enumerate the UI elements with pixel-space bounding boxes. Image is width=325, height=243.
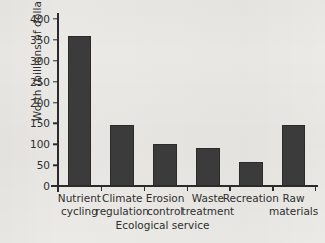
x-axis-tick [58,186,59,191]
x-axis-tick [229,186,230,191]
x-category-label: Rawmaterials [269,192,318,217]
x-category-label-line: Climate [96,192,149,205]
x-axis-tick [144,186,145,191]
bar [68,36,92,186]
x-category-label-line: Erosion [146,192,185,205]
y-axis-tick [53,39,58,40]
bar [196,148,220,186]
y-axis-tick [53,123,58,124]
y-axis-tick-label: 400 [30,13,50,25]
x-category-label-line: materials [269,205,318,218]
y-axis-tick [53,102,58,103]
y-axis-tick-label: 100 [30,138,50,150]
x-category-label: Erosioncontrol [146,192,185,217]
y-axis-tick-label: 250 [30,76,50,88]
bar [282,125,306,186]
bar [239,162,263,186]
x-category-label-line: Nutrient [58,192,101,205]
x-category-label: Nutrientcycling [58,192,101,217]
y-axis-tick-label: 350 [30,34,50,46]
y-axis-tick-label: 50 [37,159,50,171]
bar [153,144,177,186]
y-axis-tick [53,60,58,61]
x-category-label-line: cycling [58,205,101,218]
x-axis-tick [187,186,188,191]
x-axis-tick [101,186,102,191]
x-category-label-line: Raw [269,192,318,205]
y-axis-tick-label: 150 [30,117,50,129]
x-axis-title: Ecological service [0,219,325,231]
x-category-label-line: treatment [182,205,235,218]
y-axis-tick [53,81,58,82]
y-axis-tick-label: 0 [43,180,50,192]
x-category-label: Climateregulation [96,192,149,217]
y-axis-tick [53,164,58,165]
x-axis-tick [272,186,273,191]
x-axis-tick [315,186,316,191]
plot-area: 050100150200250300350400 [58,19,315,186]
bar [110,125,134,186]
x-category-label-line: control [146,205,185,218]
y-axis-tick [53,18,58,19]
y-axis-tick [53,144,58,145]
bar-chart-figure: Worth (billions of dollars) 050100150200… [0,0,325,243]
y-axis-tick-label: 200 [30,97,50,109]
y-axis-tick-label: 300 [30,55,50,67]
x-category-label-line: regulation [96,205,149,218]
